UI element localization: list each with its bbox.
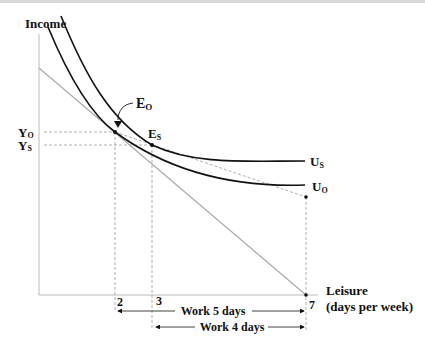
eo-arrowhead: [114, 121, 122, 128]
point-eo: [113, 130, 117, 134]
es-to-seven-guide: [115, 132, 306, 197]
labor-leisure-diagram: Income EO ES YO YS US UO Leisure (days p…: [0, 0, 425, 339]
tick-7: 7: [309, 298, 315, 312]
label-us: US: [310, 154, 324, 170]
x-axis-label-line2: (days per week): [326, 299, 413, 314]
point-endowment: [304, 195, 308, 199]
y-axis-label: Income: [25, 16, 66, 31]
point-x-intercept: [304, 293, 308, 297]
work-5-label: Work 5 days: [181, 304, 246, 318]
eo-leader: [118, 103, 133, 120]
label-eo: EO: [136, 96, 152, 112]
label-uo: UO: [312, 179, 328, 195]
label-es: ES: [148, 126, 162, 142]
tick-ys: YS: [18, 138, 32, 153]
tick-3: 3: [156, 294, 162, 308]
budget-line: [39, 68, 306, 295]
x-axis-label-line1: Leisure: [326, 283, 368, 298]
curve-us: [61, 16, 305, 161]
point-es: [150, 143, 154, 147]
work-4-label: Work 4 days: [200, 320, 265, 334]
tick-2: 2: [117, 295, 123, 309]
